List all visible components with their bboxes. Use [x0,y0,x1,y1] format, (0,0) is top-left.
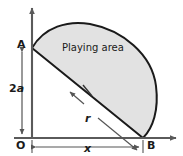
playing-area-label: Playing area [62,43,124,53]
playing-area-shape [32,23,157,138]
playing-area-fill [32,23,157,138]
geometry-diagram: A O B 2a x r Playing area [0,0,183,156]
dimension-label-r: r [85,113,90,124]
point-label-b: B [147,140,155,151]
point-label-a: A [17,39,26,50]
figure-canvas [0,0,183,156]
dimension-label-2a: 2a [9,83,24,94]
dimension-label-x: x [84,143,91,154]
point-label-o: O [16,140,25,151]
dimension-arrow-r-upper [70,92,84,104]
